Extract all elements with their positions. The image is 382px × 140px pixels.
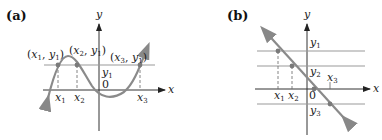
point-label-x2-y1: (x2, y1) — [69, 44, 106, 58]
y3-label: y3 — [309, 104, 321, 118]
point-3 — [328, 102, 333, 107]
x2-label: x2 — [74, 91, 85, 105]
origin-label: 0 — [309, 89, 316, 102]
x3-label: x3 — [137, 91, 148, 105]
point-x2-y1 — [75, 63, 80, 68]
panel-a: (a) y x (x1, y1) (x2, y1) (x3, y1) y1 0 … — [6, 8, 175, 131]
point-1 — [276, 49, 281, 54]
origin-label: 0 — [102, 78, 109, 91]
panel-b-label: (b) — [227, 8, 248, 23]
x3-label: x3 — [327, 71, 338, 85]
y2-label: y2 — [309, 65, 321, 79]
point-x1-y1 — [56, 63, 61, 68]
panel-b: (b) y x y1 y2 y3 0 x1 x2 x3 — [227, 8, 380, 135]
y1-label: y1 — [309, 36, 321, 50]
figure: (a) y x (x1, y1) (x2, y1) (x3, y1) y1 0 … — [0, 0, 382, 140]
y-axis-label: y — [303, 8, 311, 21]
x-axis-label: x — [373, 82, 380, 95]
x1-label: x1 — [274, 89, 285, 103]
y-axis-label: y — [95, 8, 103, 21]
x-axis-label: x — [168, 83, 175, 96]
x1-label: x1 — [55, 91, 66, 105]
x2-label: x2 — [288, 89, 299, 103]
point-label-x1-y1: (x1, y1) — [27, 48, 64, 62]
point-2 — [290, 64, 295, 69]
panel-a-label: (a) — [6, 8, 27, 23]
point-label-x3-y1: (x3, y1) — [110, 51, 147, 65]
